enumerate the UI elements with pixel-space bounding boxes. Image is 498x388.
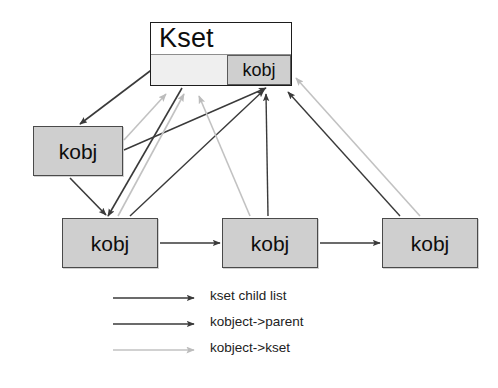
node-kset-inner-kobj[interactable]: kobj — [227, 55, 291, 85]
edge-kobjb3-parent — [288, 92, 400, 216]
edge-kobjleft-to-kobjb1 — [70, 178, 106, 215]
node-label: kobj — [91, 233, 130, 254]
legend-label-kset-ref: kobject->kset — [210, 340, 290, 356]
edge-kobjleft-parent — [124, 88, 266, 150]
edge-kobjb2-kset — [199, 96, 250, 216]
node-label: kobj — [251, 233, 290, 254]
legend-label-child-list: kset child list — [210, 288, 287, 304]
node-label: kobj — [411, 233, 450, 254]
edge-kobjb1-kset — [118, 94, 184, 216]
legend-arrow-kset-ref — [112, 344, 204, 356]
node-kobj-bottom-3[interactable]: kobj — [382, 218, 478, 268]
legend-arrow-child-list — [112, 292, 204, 304]
edge-kobjleft-kset — [124, 94, 166, 140]
edge-kobjb2-parent — [266, 94, 268, 216]
node-kset[interactable]: Kset kobj — [150, 22, 292, 86]
legend-label-parent: kobject->parent — [210, 314, 303, 330]
node-kobj-left[interactable]: kobj — [33, 126, 123, 176]
kset-title-label: Kset — [159, 25, 214, 52]
node-label: kobj — [242, 61, 275, 79]
node-kobj-bottom-2[interactable]: kobj — [222, 218, 318, 268]
edge-kobjb1-parent — [130, 90, 264, 216]
diagram-canvas: Kset kobj kobj kobj kobj kobj kset child… — [0, 0, 498, 388]
legend: kset child list kobject->parent kobject-… — [112, 288, 392, 366]
legend-row-kset-ref: kobject->kset — [112, 340, 392, 366]
node-kobj-bottom-1[interactable]: kobj — [62, 218, 158, 268]
legend-row-parent: kobject->parent — [112, 314, 392, 340]
node-label: kobj — [59, 141, 98, 162]
legend-row-child-list: kset child list — [112, 288, 392, 314]
edge-kobjb3-kset — [296, 78, 420, 216]
legend-arrow-parent — [112, 318, 204, 330]
